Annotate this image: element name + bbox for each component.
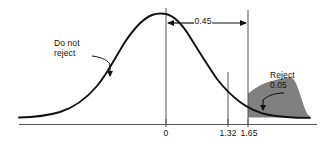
reject-label: Reject 0.05 xyxy=(270,70,295,90)
x-tick-label-1-32: 1.32 xyxy=(220,128,237,138)
do-not-reject-line-2: reject xyxy=(54,48,80,58)
normal-distribution-figure: Do not reject Reject 0.05 0.45 0 1.32 1.… xyxy=(0,0,324,156)
x-tick-label-0: 0 xyxy=(164,128,169,138)
reject-line-1: Reject xyxy=(270,70,295,80)
reject-line-2: 0.05 xyxy=(270,80,295,90)
do-not-reject-line-1: Do not xyxy=(54,38,80,48)
do-not-reject-leader xyxy=(92,56,110,64)
measure-045-label: 0.45 xyxy=(195,16,212,26)
do-not-reject-label: Do not reject xyxy=(54,38,80,58)
x-tick-label-1-65: 1.65 xyxy=(241,128,258,138)
